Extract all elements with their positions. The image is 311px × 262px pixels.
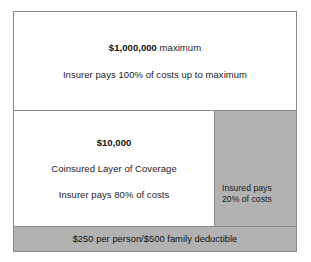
coinsured-amount-label: $10,000 — [97, 137, 132, 148]
layer-deductible: $250 per person/$500 family deductible — [14, 227, 296, 251]
coinsured-name-label: Coinsured Layer of Coverage — [51, 163, 176, 174]
layer-coinsured-insurer-share: $10,000 Coinsured Layer of Coverage Insu… — [14, 111, 215, 226]
insured-share-line-2: 20% of costs — [222, 194, 272, 205]
maximum-amount-value: $1,000,000 — [109, 42, 157, 53]
layer-coinsured-row: $10,000 Coinsured Layer of Coverage Insu… — [14, 111, 296, 227]
maximum-detail-label: Insurer pays 100% of costs up to maximum — [63, 69, 247, 80]
diagram-frame: $1,000,000 maximum Insurer pays 100% of … — [13, 11, 297, 252]
layer-insured-share: Insured pays 20% of costs — [215, 111, 296, 226]
maximum-amount-label: $1,000,000 maximum — [109, 42, 201, 53]
coinsured-detail-label: Insurer pays 80% of costs — [59, 189, 170, 200]
maximum-amount-suffix: maximum — [157, 42, 201, 53]
layer-maximum-coverage: $1,000,000 maximum Insurer pays 100% of … — [14, 12, 296, 111]
deductible-label: $250 per person/$500 family deductible — [73, 234, 238, 245]
insured-share-line-1: Insured pays — [222, 183, 272, 194]
insurance-coverage-diagram: $1,000,000 maximum Insurer pays 100% of … — [0, 0, 311, 262]
